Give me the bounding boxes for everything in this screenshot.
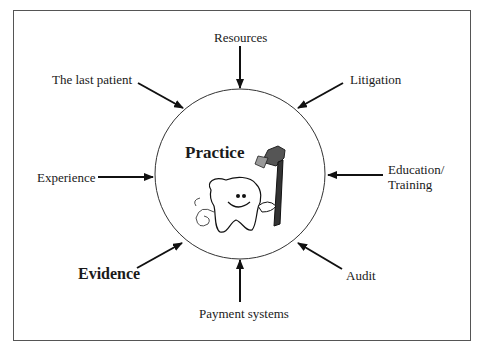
label-audit: Audit (346, 268, 376, 283)
label-resources: Resources (214, 30, 267, 45)
center-label: Practice (185, 143, 244, 163)
arrow-last-patient (138, 83, 183, 108)
practice-circle (155, 89, 325, 259)
label-experience: Experience (37, 170, 95, 185)
label-education-line1: Education/ (388, 162, 444, 177)
arrow-audit (298, 243, 342, 269)
label-litigation: Litigation (350, 72, 401, 87)
label-last-patient: The last patient (52, 72, 132, 87)
label-education-line2: Training (388, 177, 444, 192)
label-payment-systems: Payment systems (199, 306, 289, 321)
label-education: Education/ Training (388, 162, 444, 192)
arrow-evidence (137, 243, 182, 268)
arrow-litigation (298, 83, 343, 108)
label-evidence: Evidence (78, 266, 140, 281)
